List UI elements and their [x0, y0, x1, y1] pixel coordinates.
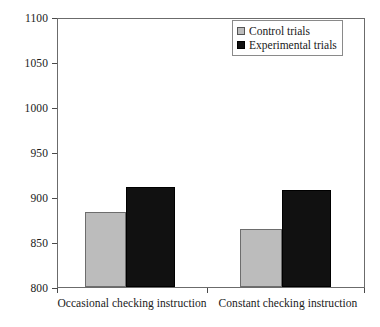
- x-axis: Occasional checking instruction Constant…: [57, 288, 365, 327]
- legend-item-control: Control trials: [237, 24, 337, 38]
- y-axis-tick-label: 900: [30, 191, 52, 205]
- y-axis: 1100 1050 1000 950 900 850 800: [0, 0, 57, 327]
- y-axis-tick: 1100: [25, 11, 57, 25]
- x-axis-label-constant: Constant checking instruction: [212, 297, 364, 309]
- legend-label-experimental: Experimental trials: [249, 38, 337, 52]
- y-axis-tick-label: 950: [30, 146, 52, 160]
- y-axis-tick-label: 850: [30, 236, 52, 250]
- legend-label-control: Control trials: [249, 24, 310, 38]
- y-axis-tick: 900: [30, 191, 57, 205]
- x-axis-label-occasional: Occasional checking instruction: [57, 297, 207, 309]
- y-axis-tick: 1000: [25, 101, 57, 115]
- y-axis-tick: 800: [30, 281, 57, 295]
- x-axis-tick-mark: [207, 288, 208, 293]
- y-axis-tick-label: 1000: [25, 101, 52, 115]
- bar-occasional-experimental: [126, 187, 175, 287]
- y-axis-tick-label: 800: [30, 281, 52, 295]
- bar-chart-figure: 1100 1050 1000 950 900 850 800: [0, 0, 380, 327]
- x-axis-tick-mark: [57, 288, 58, 293]
- plot-inner: [58, 19, 364, 287]
- bar-constant-control: [240, 229, 282, 287]
- control-swatch-icon: [237, 27, 245, 35]
- legend-item-experimental: Experimental trials: [237, 38, 337, 52]
- bar-occasional-control: [85, 212, 126, 287]
- x-axis-tick-mark: [364, 288, 365, 293]
- y-axis-tick: 1050: [25, 56, 57, 70]
- legend: Control trials Experimental trials: [232, 20, 343, 56]
- experimental-swatch-icon: [237, 41, 245, 49]
- y-axis-tick-label: 1100: [25, 11, 52, 25]
- y-axis-tick: 850: [30, 236, 57, 250]
- plot-area: Control trials Experimental trials: [57, 18, 365, 288]
- y-axis-tick-label: 1050: [25, 56, 52, 70]
- bar-constant-experimental: [282, 190, 331, 287]
- y-axis-tick: 950: [30, 146, 57, 160]
